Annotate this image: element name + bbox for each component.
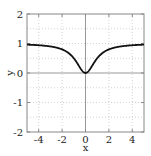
- y-tick-label: 1: [17, 38, 23, 49]
- x-tick-label: 2: [106, 134, 112, 145]
- x-tick-label: 4: [129, 134, 135, 145]
- x-tick-label: -4: [34, 134, 44, 145]
- y-tick-label: -2: [13, 127, 23, 138]
- y-tick-label: 2: [17, 9, 23, 20]
- y-axis-label: y: [4, 70, 15, 77]
- y-tick-label: -1: [13, 97, 23, 108]
- x-tick-label: -2: [57, 134, 67, 145]
- line-chart: -4-2024 210-1-2 x y: [0, 0, 151, 156]
- y-tick-label: 0: [17, 68, 23, 79]
- x-axis-label: x: [83, 142, 89, 153]
